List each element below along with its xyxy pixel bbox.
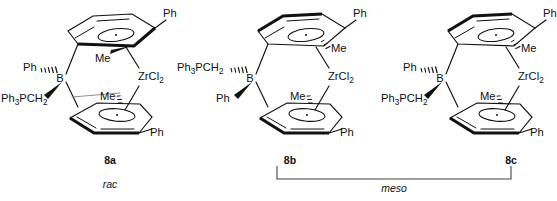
bond-cp-top-to-boron [256, 44, 268, 74]
label-phenyl-bottom: Ph [530, 126, 544, 138]
label-boron: B [56, 72, 63, 84]
label-methyl-top: Me [521, 42, 537, 54]
bond-cp-top-to-boron [66, 44, 78, 74]
bond-cp-top-to-phenyl [345, 20, 356, 28]
compound-label-8c: 8c [505, 154, 517, 166]
cp-top-centroid-dot [305, 34, 307, 36]
structure-8b: B Ph Ph Ph3PCH2 Ph ZrCl2 Me Me 8b [177, 7, 367, 166]
stereo-label-rac: rac [103, 178, 118, 190]
phosphonium-sub-2: 2 [43, 98, 48, 107]
cp-ring-bottom [450, 103, 532, 133]
label-boron-phenyl-wedge: Ph [216, 92, 230, 104]
label-phenyl-top: Ph [163, 7, 177, 19]
structure-8a: B Ph Ph Ph Ph3PCH2 ZrCl2 Me Me 8a rac [1, 7, 177, 190]
metal-zrcl: ZrCl [328, 70, 349, 82]
label-boron: B [246, 72, 253, 84]
compound-label-8a: 8a [104, 154, 116, 166]
cp-ring-bottom [70, 103, 152, 133]
phosphonium-pch: PCH [19, 92, 43, 104]
stereo-label-meso: meso [381, 182, 407, 194]
chemical-structure-figure: B Ph Ph Ph Ph3PCH2 ZrCl2 Me Me 8a rac [0, 0, 557, 201]
metal-sub-2: 2 [349, 76, 354, 85]
label-methyl-bottom: Me [480, 90, 496, 102]
solid-wedge-phosphonium-to-boron [424, 82, 442, 99]
label-boron-phenyl-hashed: Ph [23, 61, 37, 73]
label-phenyl-top: Ph [543, 7, 557, 19]
hashed-wedge-bottom-methyl [497, 96, 503, 103]
phosphonium-pch: PCH [195, 61, 219, 73]
hashed-wedge-phosphonium-to-boron [231, 66, 247, 73]
cp-top-inner-bond-2 [97, 19, 129, 21]
bond-cp-top-to-zr [506, 47, 519, 68]
cp-bottom-centroid-dot [116, 114, 118, 116]
label-phenyl-bottom: Ph [340, 126, 354, 138]
label-phosphonium-substituent: Ph3PCH2 [177, 61, 224, 76]
phosphonium-ph: Ph [1, 92, 15, 104]
bond-cp-top-to-zr [126, 47, 139, 68]
solid-wedge-phenyl-to-boron [234, 82, 252, 99]
metal-zrcl: ZrCl [518, 70, 539, 82]
label-phenyl-bottom: Ph [150, 126, 164, 138]
label-methyl-top: Me [331, 42, 347, 54]
compound-label-8b: 8b [284, 154, 296, 166]
bond-cp-top-to-phenyl [155, 20, 166, 28]
bond-boron-to-cp-bottom [66, 82, 78, 107]
bond-cp-top-to-zr [316, 47, 329, 68]
cp-top-inner-bond-1 [455, 27, 474, 38]
metal-zrcl: ZrCl [138, 70, 159, 82]
metal-sub-2: 2 [159, 76, 164, 85]
hashed-wedge-bottom-methyl [307, 96, 313, 103]
bond-boron-to-cp-bottom [446, 82, 458, 107]
bond-zr-to-cp-bottom [125, 86, 139, 110]
cp-top-inner-bond-1 [75, 27, 94, 38]
bond-boron-to-cp-bottom [256, 82, 268, 107]
label-methyl-bottom: Me [100, 90, 116, 102]
hashed-wedge-phenyl-to-boron [41, 66, 57, 73]
cp-top-inner-bond-2 [287, 19, 319, 21]
phosphonium-ph: Ph [177, 61, 191, 73]
structure-8c: B Ph Ph Ph Ph3PCH2 ZrCl2 Me Me 8c [381, 7, 557, 166]
hashed-wedge-phenyl-to-boron [421, 66, 437, 73]
cp-ring-top [68, 14, 155, 46]
bond-cp-top-to-phenyl [535, 20, 546, 28]
label-phosphonium-substituent: Ph3PCH2 [381, 92, 428, 107]
label-boron-phenyl-hashed: Ph [403, 61, 417, 73]
label-metal: ZrCl2 [138, 70, 164, 85]
bond-zr-to-cp-bottom [315, 86, 329, 110]
phosphonium-ph: Ph [381, 92, 395, 104]
cp-top-centroid-dot [495, 34, 497, 36]
solid-wedge-phosphonium-to-boron [44, 82, 62, 99]
phosphonium-sub-2: 2 [219, 67, 224, 76]
cp-top-bold-edge [78, 28, 155, 46]
phosphonium-pch: PCH [399, 92, 423, 104]
bond-cp-top-to-boron [446, 44, 458, 74]
label-methyl-bottom: Me [290, 90, 306, 102]
hashed-wedge-bottom-methyl [117, 96, 123, 103]
cp-top-inner-bond-1 [265, 27, 284, 38]
label-metal: ZrCl2 [518, 70, 544, 85]
label-boron: B [436, 72, 443, 84]
cp-top-centroid-dot [115, 34, 117, 36]
bond-zr-to-cp-bottom [505, 86, 519, 110]
metal-sub-2: 2 [539, 76, 544, 85]
cp-bottom-centroid-dot [306, 114, 308, 116]
label-phenyl-top: Ph [353, 7, 367, 19]
cp-ring-bottom [260, 103, 342, 133]
meso-bracket: meso [277, 166, 511, 194]
label-methyl-top: Me [95, 52, 111, 64]
cp-top-inner-bond-2 [477, 19, 509, 21]
label-metal: ZrCl2 [328, 70, 354, 85]
cp-bottom-centroid-dot [496, 114, 498, 116]
phosphonium-sub-2: 2 [423, 98, 428, 107]
label-phosphonium-substituent: Ph3PCH2 [1, 92, 48, 107]
meso-bracket-path [277, 166, 511, 179]
